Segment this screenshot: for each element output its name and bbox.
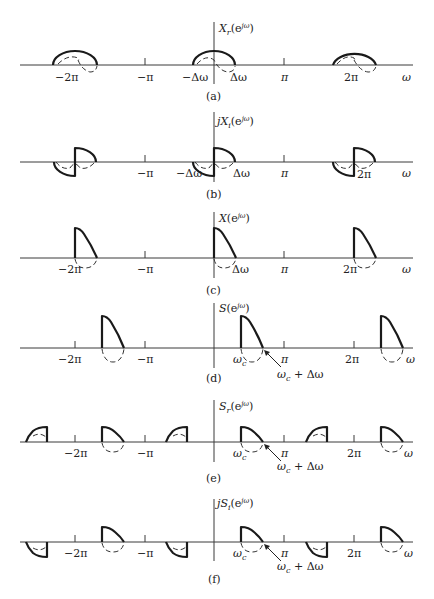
lobe-shifted-neg bbox=[102, 316, 124, 362]
label-neg-delta-omega: −Δω bbox=[182, 71, 208, 84]
label-neg-2pi: −2π bbox=[58, 353, 81, 366]
panel-a: −2π −π −Δω Δω π 2π ω Xr(ejω) (a) bbox=[20, 22, 413, 103]
lobe-shifted-wc bbox=[241, 427, 263, 452]
label-neg-delta-omega: −Δω bbox=[176, 167, 202, 180]
label-pi: π bbox=[280, 71, 289, 84]
label-2pi: 2π bbox=[344, 71, 358, 84]
panel-title: Xr(ejω) bbox=[218, 22, 254, 37]
label-delta-omega: Δω bbox=[233, 167, 250, 180]
label-omega: ω bbox=[402, 263, 411, 276]
label-2pi: 2π bbox=[343, 263, 357, 276]
label-omega: ω bbox=[404, 547, 413, 560]
label-2pi: 2π bbox=[347, 447, 361, 460]
panel-e: −2π −π ωc π 2π ω ωc + Δω Sr(ejω) (e) bbox=[20, 400, 413, 485]
label-omega: ω bbox=[402, 167, 411, 180]
caption: (d) bbox=[206, 372, 222, 385]
label-delta-omega: Δω bbox=[230, 71, 247, 84]
annotation-wc-plus-dw: ωc + Δω bbox=[277, 460, 324, 475]
annotation-wc-plus-dw: ωc + Δω bbox=[277, 560, 324, 575]
label-delta-omega: Δω bbox=[232, 263, 249, 276]
panel-title: X(ejω) bbox=[218, 212, 250, 225]
label-2pi: 2π bbox=[347, 547, 361, 560]
lobe-2pi bbox=[333, 54, 376, 72]
lobe-pos-3 bbox=[381, 527, 403, 552]
caption: (e) bbox=[206, 472, 221, 485]
label-omega-c: ωc bbox=[233, 353, 247, 368]
label-pi: π bbox=[280, 353, 289, 366]
lobe-pos-wc bbox=[241, 527, 263, 552]
lobe-mirror-1 bbox=[26, 427, 47, 442]
lobe-mirror-3 bbox=[306, 427, 327, 442]
panel-title: jSi(ejω) bbox=[214, 497, 254, 512]
lobe-shifted-wc bbox=[241, 316, 263, 362]
lobe-neg-1 bbox=[26, 542, 47, 557]
label-neg-pi: −π bbox=[137, 353, 153, 366]
lobe-2pi bbox=[354, 228, 376, 268]
lobe-neg-3 bbox=[306, 542, 327, 557]
caption: (b) bbox=[206, 188, 222, 201]
lobe-zero bbox=[214, 228, 236, 268]
panel-title: Sr(ejω) bbox=[219, 400, 253, 415]
label-neg-2pi: −2π bbox=[64, 447, 87, 460]
label-2pi: 2π bbox=[345, 353, 359, 366]
lobe-neg2pi bbox=[53, 51, 97, 72]
label-2pi: 2π bbox=[357, 168, 371, 181]
spectrum-figure: −2π −π −Δω Δω π 2π ω Xr(ejω) (a) −π − bbox=[0, 0, 434, 599]
lobe-neg2pi bbox=[75, 228, 97, 268]
label-pi: π bbox=[280, 263, 289, 276]
label-omega-c: ωc bbox=[233, 447, 247, 462]
label-neg-2pi: −2π bbox=[64, 547, 87, 560]
lobe-shifted-1 bbox=[102, 427, 124, 452]
caption: (c) bbox=[206, 284, 221, 297]
lobe-pos-1 bbox=[102, 527, 124, 552]
label-neg-pi: −π bbox=[137, 547, 153, 560]
panel-c: −2π −π Δω π 2π ω X(ejω) (c) bbox=[20, 212, 413, 297]
label-pi: π bbox=[280, 167, 289, 180]
caption: (a) bbox=[206, 90, 221, 103]
annotation-wc-plus-dw: ωc + Δω bbox=[277, 368, 324, 383]
label-neg-pi: −π bbox=[137, 447, 153, 460]
label-omega: ω bbox=[406, 353, 415, 366]
label-pi: π bbox=[280, 447, 289, 460]
panel-title: S(ejω) bbox=[219, 302, 250, 315]
label-neg-pi: −π bbox=[137, 71, 153, 84]
label-omega: ω bbox=[404, 447, 413, 460]
label-omega-c: ωc bbox=[233, 547, 247, 562]
caption: (f) bbox=[208, 573, 221, 586]
lobe-shifted-pos bbox=[381, 316, 403, 362]
label-neg-2pi: −2π bbox=[58, 263, 81, 276]
label-omega: ω bbox=[402, 71, 411, 84]
panel-d: −2π −π ωc π 2π ω ωc + Δω S(ejω) (d) bbox=[20, 302, 415, 385]
lobe-shifted-3 bbox=[381, 427, 403, 452]
lobe-neg-2 bbox=[166, 542, 187, 557]
panel-title: jXi(ejω) bbox=[214, 115, 254, 130]
panel-f: −2π −π ωc π 2π ω ωc + Δω jSi(ejω) (f) bbox=[20, 497, 413, 586]
label-pi: π bbox=[280, 547, 289, 560]
label-neg-2pi: −2π bbox=[55, 71, 78, 84]
label-neg-pi: −π bbox=[137, 167, 153, 180]
label-neg-pi: −π bbox=[137, 263, 153, 276]
lobe-mirror-2 bbox=[166, 427, 187, 442]
panel-b: −π −Δω Δω π 2π ω jXi(ejω) (b) bbox=[20, 112, 413, 201]
